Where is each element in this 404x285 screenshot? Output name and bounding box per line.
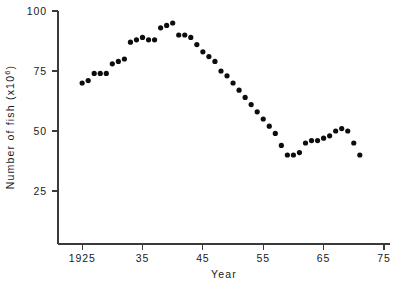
y-tick-label: 75 (34, 65, 47, 77)
data-point (134, 37, 139, 42)
data-point (261, 116, 266, 121)
data-point (110, 61, 115, 66)
data-point (218, 68, 223, 73)
data-point (200, 49, 205, 54)
x-tick-label: 55 (256, 252, 269, 264)
data-point (122, 56, 127, 61)
data-point (104, 71, 109, 76)
data-point (273, 131, 278, 136)
data-point (164, 23, 169, 28)
data-point (279, 143, 284, 148)
x-axis-ticks: 19253545556575 (69, 244, 391, 264)
x-tick-label: 75 (377, 252, 390, 264)
data-point (327, 133, 332, 138)
data-point (321, 136, 326, 141)
data-point (357, 152, 362, 157)
data-point (212, 59, 217, 64)
data-point (315, 138, 320, 143)
data-point (297, 150, 302, 155)
data-point (182, 32, 187, 37)
data-point (230, 80, 235, 85)
data-point (194, 42, 199, 47)
data-point (206, 54, 211, 59)
y-axis-title: Number of fish (x106) (3, 65, 16, 190)
y-tick-label: 100 (27, 5, 47, 17)
data-point (86, 78, 91, 83)
data-point (146, 37, 151, 42)
data-point (158, 25, 163, 30)
data-point (176, 32, 181, 37)
x-tick-label: 1925 (69, 252, 96, 264)
chart-canvas: 255075100 19253545556575 Year Number of … (0, 0, 404, 285)
data-point (285, 152, 290, 157)
y-tick-label: 50 (34, 125, 47, 137)
data-point (267, 124, 272, 129)
fish-population-chart: 255075100 19253545556575 Year Number of … (0, 0, 404, 285)
data-point (249, 102, 254, 107)
data-point (291, 152, 296, 157)
data-point (80, 80, 85, 85)
data-point (339, 126, 344, 131)
data-point (92, 71, 97, 76)
x-tick-label: 65 (317, 252, 330, 264)
y-tick-label: 25 (34, 185, 47, 197)
data-point (243, 95, 248, 100)
data-point-group (80, 20, 363, 157)
data-point (116, 59, 121, 64)
data-point (224, 73, 229, 78)
data-point (333, 128, 338, 133)
data-point (345, 128, 350, 133)
data-point (140, 35, 145, 40)
data-point (128, 40, 133, 45)
x-tick-label: 45 (196, 252, 209, 264)
data-point (351, 140, 356, 145)
data-point (255, 109, 260, 114)
y-axis-ticks: 255075100 (27, 5, 58, 197)
data-point (152, 37, 157, 42)
data-point (188, 35, 193, 40)
data-point (303, 140, 308, 145)
data-point (98, 71, 103, 76)
x-axis-title: Year (211, 268, 237, 280)
x-tick-label: 35 (136, 252, 149, 264)
data-point (170, 20, 175, 25)
data-point (309, 138, 314, 143)
data-point (236, 88, 241, 93)
